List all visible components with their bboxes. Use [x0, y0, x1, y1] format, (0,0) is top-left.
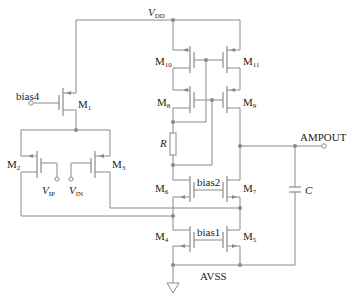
- transistor-m1: [29, 20, 78, 132]
- ampout-net: [238, 144, 326, 148]
- bias2-label: bias2: [197, 176, 220, 188]
- transistor-m5: [223, 226, 240, 265]
- resistor-r: [170, 133, 176, 180]
- avss-label: AVSS: [200, 270, 227, 282]
- transistor-m3: [69, 151, 110, 208]
- m5-label: M5: [243, 230, 257, 244]
- transistor-m8: [171, 60, 223, 133]
- vdd-label: VDD: [148, 6, 165, 20]
- circuit-svg: VDD bias4 M1 M2 M3 VIP VIN M10 M11 M8 M9…: [0, 0, 353, 299]
- m3-label: M3: [112, 158, 126, 172]
- m10-label: M10: [155, 55, 172, 69]
- vdd-rail: [76, 18, 240, 50]
- vip-label: VIP: [42, 184, 55, 198]
- transistor-m10: [173, 46, 223, 90]
- m7-label: M7: [243, 182, 257, 196]
- transistor-m11: [223, 46, 240, 90]
- m11-label: M11: [243, 55, 260, 69]
- ground-icon: [167, 283, 179, 293]
- m9-label: M9: [243, 96, 257, 110]
- bias1-label: bias1: [197, 226, 220, 238]
- transistor-m7: [223, 176, 240, 230]
- transistor-m2: [21, 151, 59, 216]
- m8-label: M8: [157, 96, 171, 110]
- bias4-label: bias4: [16, 90, 40, 102]
- r-label: R: [159, 137, 167, 149]
- ampout-label: AMPOUT: [300, 131, 347, 143]
- vin-label: VIN: [69, 184, 83, 198]
- m4-label: M4: [155, 230, 169, 244]
- avss-rail: [167, 263, 295, 293]
- capacitor-c: [289, 146, 301, 265]
- m2-label: M2: [7, 158, 21, 172]
- m1-label: M1: [78, 98, 92, 112]
- c-label: C: [305, 184, 313, 196]
- schematic: VDD bias4 M1 M2 M3 VIP VIN M10 M11 M8 M9…: [0, 0, 353, 299]
- m6-label: M6: [155, 182, 169, 196]
